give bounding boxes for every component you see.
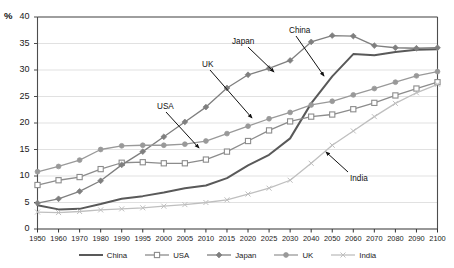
data-point-marker xyxy=(435,69,440,74)
x-axis-tick-label: 1990 xyxy=(111,234,133,243)
annotation-label-usa: USA xyxy=(157,102,174,111)
y-axis-tick-label: 0 xyxy=(8,223,30,233)
y-axis-tick-label: 25 xyxy=(8,91,30,101)
legend-label: India xyxy=(359,251,376,260)
data-point-marker xyxy=(77,174,82,179)
annotation-arrow-japan xyxy=(248,47,274,72)
x-axis-tick-label: 1950 xyxy=(27,234,49,243)
data-point-marker xyxy=(161,161,166,166)
data-point-marker xyxy=(351,93,356,98)
data-point-marker xyxy=(309,161,314,166)
data-point-marker xyxy=(56,178,61,183)
legend-entry-usa[interactable]: USA xyxy=(144,250,189,260)
legend-label: USA xyxy=(173,251,189,260)
legend-entry-japan[interactable]: Japan xyxy=(206,250,256,260)
data-point-marker xyxy=(330,112,335,117)
annotation-label-japan: Japan xyxy=(232,37,254,46)
data-point-marker xyxy=(393,93,398,98)
annotation-arrow-india xyxy=(326,152,348,172)
series-uk xyxy=(35,69,440,174)
x-axis-tick-label: 2005 xyxy=(174,234,196,243)
data-point-marker xyxy=(351,128,356,133)
data-point-marker xyxy=(182,161,187,166)
data-point-marker xyxy=(35,182,40,187)
legend-entry-china[interactable]: China xyxy=(78,250,127,260)
data-point-marker xyxy=(161,143,166,148)
data-point-marker xyxy=(140,160,145,165)
data-point-marker xyxy=(372,86,377,91)
legend-entry-uk[interactable]: UK xyxy=(273,250,313,260)
data-point-marker xyxy=(288,110,293,115)
x-axis-tick-label: 1970 xyxy=(69,234,91,243)
data-point-marker xyxy=(288,119,293,124)
data-point-marker xyxy=(267,116,272,121)
data-point-marker xyxy=(266,66,272,72)
x-axis-tick-label: 2000 xyxy=(153,234,175,243)
data-point-marker xyxy=(140,143,145,148)
legend-entry-india[interactable]: India xyxy=(330,250,376,260)
legend-label: Japan xyxy=(235,251,256,260)
y-axis-tick-label: 40 xyxy=(8,11,30,21)
x-axis-tick-label: 1960 xyxy=(48,234,70,243)
x-axis-tick-label: 2080 xyxy=(384,234,406,243)
data-point-marker xyxy=(266,128,271,133)
x-axis-tick-label: 2015 xyxy=(216,234,238,243)
line-diamond-swatch-icon xyxy=(206,250,232,260)
annotation-label-uk: UK xyxy=(202,60,213,69)
data-point-marker xyxy=(155,252,160,257)
y-axis-tick-label: 30 xyxy=(8,64,30,74)
data-point-marker xyxy=(35,169,40,174)
y-axis-tick-label: 15 xyxy=(8,144,30,154)
x-axis-tick-label: 1995 xyxy=(132,234,154,243)
data-point-marker xyxy=(119,143,124,148)
data-point-marker xyxy=(98,167,103,172)
data-point-marker xyxy=(182,142,187,147)
data-point-marker xyxy=(392,45,398,51)
line-circle-swatch-icon xyxy=(273,250,299,260)
data-point-marker xyxy=(330,99,335,104)
data-point-marker xyxy=(330,143,335,148)
x-axis-tick-label: 2060 xyxy=(342,234,364,243)
data-point-marker xyxy=(225,131,230,136)
x-axis-tick-label: 2090 xyxy=(405,234,427,243)
data-point-marker xyxy=(329,33,335,39)
line-open-square-swatch-icon xyxy=(144,250,170,260)
x-axis-tick-label: 2070 xyxy=(363,234,385,243)
data-point-marker xyxy=(246,124,251,129)
data-point-marker xyxy=(414,73,419,78)
x-axis-tick-label: 2020 xyxy=(237,234,259,243)
series-line-usa xyxy=(38,82,438,185)
x-axis-tick-label: 2030 xyxy=(279,234,301,243)
data-point-marker xyxy=(77,158,82,163)
data-point-marker xyxy=(309,114,314,119)
legend-label: UK xyxy=(302,251,313,260)
annotation-arrow-uk xyxy=(210,70,252,118)
annotation-label-china: China xyxy=(289,26,310,35)
x-axis-tick-label: 1980 xyxy=(90,234,112,243)
line-cross-swatch-icon xyxy=(330,250,356,260)
y-axis-tick-label: 10 xyxy=(8,170,30,180)
data-point-marker xyxy=(204,139,209,144)
data-point-marker xyxy=(372,100,377,105)
data-point-marker xyxy=(393,101,398,106)
data-point-marker xyxy=(372,114,377,119)
series-line-japan xyxy=(38,36,438,203)
y-axis-tick-label: 35 xyxy=(8,38,30,48)
data-point-marker xyxy=(98,147,103,152)
data-point-marker xyxy=(56,196,62,202)
chart-container: % 0510152025303540 195019601970198019901… xyxy=(0,0,454,268)
legend-label: China xyxy=(107,251,127,260)
data-point-marker xyxy=(309,103,314,108)
x-axis-tick-label: 2010 xyxy=(195,234,217,243)
y-axis-tick-label: 20 xyxy=(8,117,30,127)
data-point-marker xyxy=(393,80,398,85)
annotation-arrow-usa xyxy=(166,112,199,148)
data-point-marker xyxy=(203,157,208,162)
x-axis-tick-label: 2050 xyxy=(321,234,343,243)
data-point-marker xyxy=(350,33,356,39)
data-point-marker xyxy=(284,253,289,258)
chart-legend: ChinaUSAJapanUKIndia xyxy=(0,244,454,266)
data-point-marker xyxy=(245,138,250,143)
data-point-marker xyxy=(77,188,83,194)
series-line-uk xyxy=(38,72,438,172)
